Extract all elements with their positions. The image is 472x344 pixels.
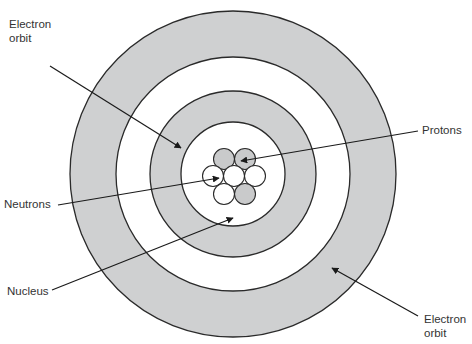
neutron — [203, 166, 224, 187]
neutron — [214, 184, 235, 205]
atom-diagram — [0, 0, 472, 344]
label-neutrons: Neutrons — [4, 197, 51, 211]
proton — [235, 184, 256, 205]
label-electron-orbit-bottom: Electron orbit — [424, 312, 466, 340]
label-electron-orbit-top: Electron orbit — [9, 17, 51, 45]
label-nucleus: Nucleus — [7, 284, 49, 298]
label-protons: Protons — [422, 123, 462, 137]
